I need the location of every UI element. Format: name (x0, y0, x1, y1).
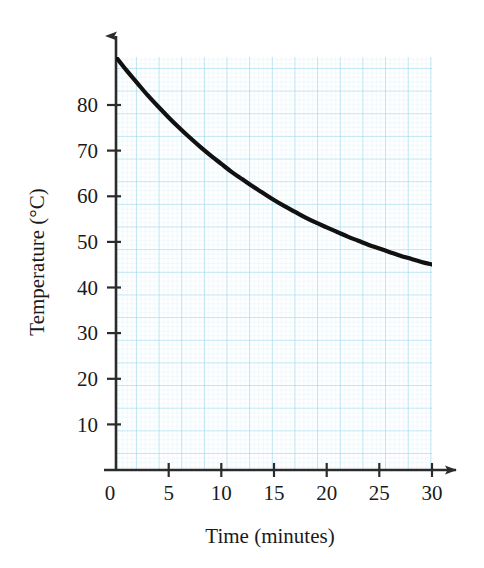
y-tick-label-20: 20 (77, 367, 98, 391)
x-tick-label-15: 15 (264, 481, 285, 505)
x-tick-label-5: 5 (163, 481, 174, 505)
y-tick-label-30: 30 (77, 321, 98, 345)
x-tick-label-20: 20 (316, 481, 337, 505)
y-tick-label-70: 70 (77, 139, 98, 163)
x-tick-label-30: 30 (422, 481, 443, 505)
chart-figure: 10 20 30 40 50 60 70 80 0 5 10 15 20 25 … (0, 0, 484, 568)
y-tick-label-80: 80 (77, 93, 98, 117)
x-tick-label-25: 25 (369, 481, 390, 505)
cooling-curve-chart: 10 20 30 40 50 60 70 80 0 5 10 15 20 25 … (0, 0, 484, 568)
grid-area (116, 57, 432, 470)
y-tick-label-10: 10 (77, 413, 98, 437)
y-axis-title: Temperature (°C) (25, 188, 49, 335)
y-tick-label-60: 60 (77, 184, 98, 208)
y-tick-label-50: 50 (77, 230, 98, 254)
x-tick-label-0: 0 (105, 481, 116, 505)
x-axis-title: Time (minutes) (205, 524, 334, 548)
y-tick-label-40: 40 (77, 276, 98, 300)
x-tick-label-10: 10 (211, 481, 232, 505)
